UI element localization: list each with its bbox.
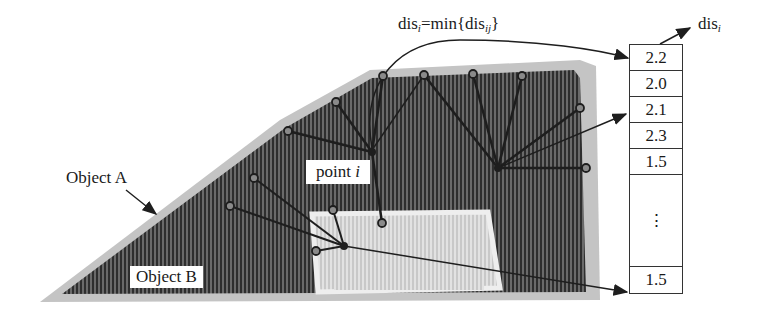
dis-text: dis bbox=[698, 14, 718, 33]
table-ellipsis-cell: ⋮ bbox=[630, 175, 682, 267]
formula-mid: =min{dis bbox=[421, 14, 485, 33]
formula-suffix: } bbox=[491, 14, 499, 33]
dis-sub: i bbox=[718, 22, 721, 34]
object-b-inner bbox=[334, 226, 484, 290]
formula-label: disi=min{disij} bbox=[398, 14, 499, 38]
formula-prefix: dis bbox=[398, 14, 418, 33]
table-cell: 1.5 bbox=[630, 149, 682, 175]
dis-i-label: disi bbox=[698, 14, 721, 38]
table-cell: 2.0 bbox=[630, 71, 682, 97]
object-b-text: Object B bbox=[136, 267, 197, 286]
object-a-label: Object A bbox=[66, 168, 127, 188]
dis-i-arrow bbox=[660, 28, 690, 44]
table-cell: 2.2 bbox=[630, 45, 682, 71]
table-cell: 1.5 bbox=[630, 267, 682, 293]
distance-table: 2.2 2.0 2.1 2.3 1.5 ⋮ 1.5 bbox=[629, 44, 683, 294]
object-b-label: Object B bbox=[130, 266, 203, 288]
point-var: i bbox=[355, 162, 360, 181]
table-cell: 2.1 bbox=[630, 97, 682, 123]
point-i-label: point i bbox=[306, 160, 370, 184]
object-a-pointer bbox=[126, 190, 156, 214]
point-text: point bbox=[316, 162, 355, 181]
table-cell: 2.3 bbox=[630, 123, 682, 149]
